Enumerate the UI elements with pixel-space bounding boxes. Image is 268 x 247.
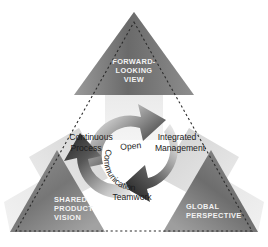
integrated-management-label-line-2: Management <box>155 143 206 153</box>
open-label: Open <box>120 140 142 152</box>
diagram-canvas: FORWARD- LOOKING VIEW SHARED PRODUCT VIS… <box>0 0 268 247</box>
continuous-process-label-line-2: Process <box>70 143 101 153</box>
triangle-cycle-diagram: FORWARD- LOOKING VIEW SHARED PRODUCT VIS… <box>0 0 268 247</box>
global-perspective-label-line-1: GLOBAL <box>186 202 219 211</box>
shared-product-vision-label-line-1: SHARED <box>54 195 88 204</box>
continuous-process-label-line-1: Continuous <box>69 132 112 142</box>
shared-product-vision-label-line-2: PRODUCT <box>54 204 93 213</box>
forward-looking-view-label-line-1: FORWARD- <box>112 57 155 66</box>
teamwork-label: Teamwork <box>112 192 152 202</box>
integrated-management-label-line-1: Integrated <box>158 132 197 142</box>
shared-product-vision-label-line-3: VISION <box>54 213 81 222</box>
forward-looking-view-label-line-3: VIEW <box>124 75 144 84</box>
forward-looking-view-label-line-2: LOOKING <box>116 66 153 75</box>
global-perspective-label-line-2: PERSPECTIVE <box>186 211 242 220</box>
